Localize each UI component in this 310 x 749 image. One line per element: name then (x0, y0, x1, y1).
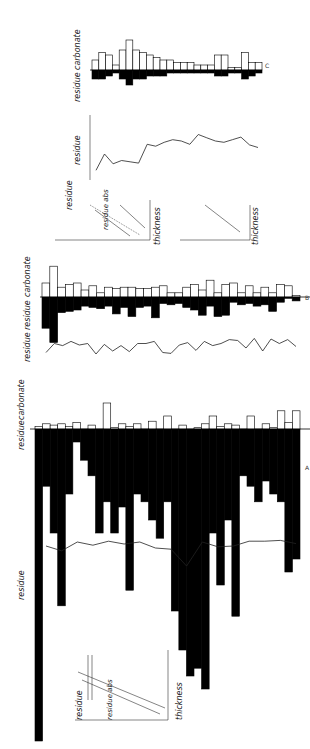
inset-thickness-label: thickness (153, 207, 162, 245)
inset-a-residue-label: residue (75, 690, 84, 720)
panel-c-residue-label: residue (73, 72, 82, 102)
panel-b-carbonate-bars (42, 266, 300, 297)
panel-a-carbonate-bars (35, 403, 300, 429)
panel-a: carbonate residue residue A (17, 379, 310, 741)
panel-c-residue-bars (92, 70, 262, 85)
stratigraphic-figure: carbonate residue residue C residue resi… (0, 0, 310, 749)
panel-b-id: B (305, 294, 309, 301)
panel-a-id: A (305, 464, 310, 471)
panel-b-carbonate-label: carbonate (23, 256, 32, 297)
panel-c-residue-line (96, 135, 258, 171)
panel-a-residue-pct-label: residue (17, 570, 26, 600)
panel-b: carbonate residue residue B (23, 256, 310, 362)
panel-c: carbonate residue residue C (73, 29, 269, 180)
inset2-thickness-label: thickness (251, 207, 260, 245)
panel-b-residue-line (46, 338, 296, 354)
panel-a-carbonate-label: carbonate (17, 379, 26, 420)
panel-b-residue-bars (42, 297, 300, 343)
panel-b-residue-pct-label: residue (23, 332, 32, 362)
panel-b-residue-label: residue (23, 300, 32, 330)
inset-a-thickness-label: thickness (175, 682, 184, 720)
panel-c-carbonate-bars (92, 40, 262, 70)
inset-residue-label: residue (65, 180, 74, 210)
panel-c-id: C (265, 62, 269, 69)
panel-c-residue-pct-label: residue (73, 135, 82, 165)
panel-a-residue-label: residue (17, 420, 26, 450)
panel-c-carbonate-label: carbonate (73, 29, 82, 70)
panel-a-inset (75, 650, 168, 720)
inset-residue-abs-label: residue abs (102, 189, 110, 230)
inset-a-residue-abs-label: residue abs (106, 679, 114, 720)
